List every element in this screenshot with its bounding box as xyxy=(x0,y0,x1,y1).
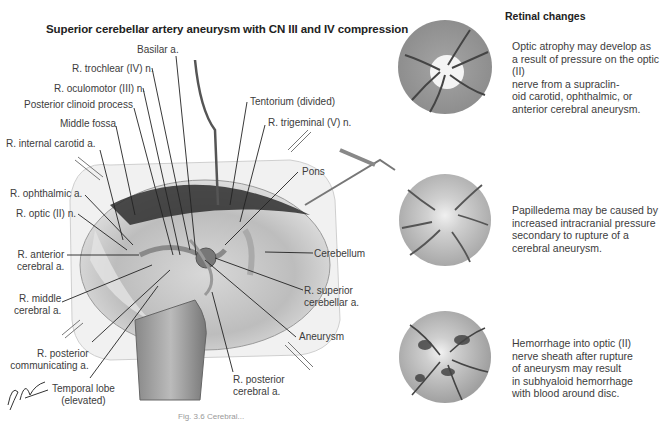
label-pons: Pons xyxy=(302,166,325,178)
fundus-optic-atrophy xyxy=(398,20,492,114)
label-posterior-clinoid: Posterior clinoid process xyxy=(24,99,133,111)
label-aneurysm: Aneurysm xyxy=(299,331,344,343)
label-tentorium: Tentorium (divided) xyxy=(250,96,335,108)
figure-caption: Fig. 3.6 Cerebral... xyxy=(178,412,244,421)
label-posterior-cerebral: R. posterior cerebral a. xyxy=(233,374,285,398)
label-middle-cerebral: R. middle cerebral a. xyxy=(14,293,61,317)
label-trigeminal: R. trigeminal (V) n. xyxy=(268,117,351,129)
retinal-text-optic-atrophy: Optic atrophy may develop as a result of… xyxy=(512,40,669,115)
label-superior-cerebellar: R. superior cerebellar a. xyxy=(304,285,359,309)
retinal-text-hemorrhage: Hemorrhage into optic (II) nerve sheath … xyxy=(512,337,633,400)
label-ophthalmic: R. ophthalmic a. xyxy=(10,188,82,200)
fundus-hemorrhage xyxy=(399,311,491,403)
label-basilar: Basilar a. xyxy=(137,44,179,56)
label-trochlear: R. trochlear (IV) n. xyxy=(72,63,154,75)
label-optic: R. optic (II) n. xyxy=(16,208,76,220)
label-anterior-cerebral: R. anterior cerebral a. xyxy=(17,249,64,273)
label-posterior-communicating: R. posterior communicating a. xyxy=(6,348,89,372)
label-temporal-lobe: Temporal lobe (elevated) xyxy=(52,383,115,407)
fundus-papilledema xyxy=(399,174,491,266)
label-cerebellum: Cerebellum xyxy=(314,248,365,260)
netter-signature xyxy=(8,382,48,410)
label-internal-carotid: R. internal carotid a. xyxy=(6,138,96,150)
label-oculomotor: R. oculomotor (III) n. xyxy=(54,83,145,95)
label-middle-fossa: Middle fossa xyxy=(60,118,116,130)
retinal-text-papilledema: Papilledema may be caused by increased i… xyxy=(512,204,658,254)
